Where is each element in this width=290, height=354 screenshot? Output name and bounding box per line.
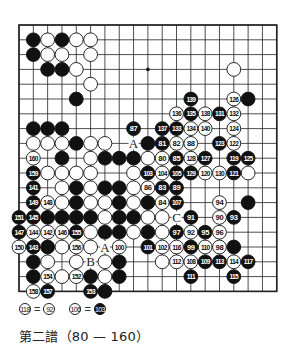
black-stone xyxy=(112,270,126,284)
move-number: 82 xyxy=(173,139,181,148)
move-number: 92 xyxy=(187,228,195,237)
black-stone: 153 xyxy=(84,285,98,299)
black-stone xyxy=(141,196,155,210)
move-number: 130 xyxy=(215,170,225,177)
white-stone xyxy=(41,255,55,269)
black-stone xyxy=(26,270,40,284)
white-stone: 90 xyxy=(213,211,227,225)
white-stone: 154 xyxy=(41,270,55,284)
white-stone xyxy=(55,240,69,254)
move-number: 109 xyxy=(201,258,211,265)
black-stone xyxy=(41,211,55,225)
white-stone xyxy=(84,166,98,180)
white-stone xyxy=(69,63,83,77)
diagram-caption: 第二譜（80 — 160） xyxy=(19,326,149,345)
white-stone xyxy=(84,33,98,47)
move-number: 94 xyxy=(216,198,225,207)
equals-sign: = xyxy=(83,303,91,315)
black-stone: 91 xyxy=(184,211,198,225)
black-stone: 145 xyxy=(26,211,40,225)
move-number: 126 xyxy=(229,96,239,103)
move-number: 111 xyxy=(187,273,196,280)
move-number: 97 xyxy=(173,228,181,237)
white-stone xyxy=(155,255,169,269)
black-stone: 85 xyxy=(170,151,184,165)
black-stone: 147 xyxy=(12,225,26,239)
white-stone: 126 xyxy=(227,92,241,106)
white-stone xyxy=(55,166,69,180)
black-stone: 133 xyxy=(170,122,184,136)
white-stone xyxy=(41,48,55,62)
white-stone xyxy=(127,166,141,180)
move-number: 122 xyxy=(229,140,239,147)
move-number: 85 xyxy=(173,154,182,163)
move-number: 148 xyxy=(43,199,53,206)
move-number: 147 xyxy=(15,229,25,236)
move-number: 131 xyxy=(215,110,225,117)
white-stone: 160 xyxy=(26,151,40,165)
move-number: 113 xyxy=(215,258,225,265)
black-stone xyxy=(26,255,40,269)
black-stone: 121 xyxy=(227,166,241,180)
black-stone: 127 xyxy=(198,151,212,165)
go-board-diagram: 1391261361351381311328713713313414012481… xyxy=(0,0,290,300)
white-stone: 108 xyxy=(184,255,198,269)
equals-sign: = xyxy=(33,303,41,315)
white-stone xyxy=(241,166,255,180)
white-stone xyxy=(41,137,55,151)
move-number: 127 xyxy=(201,155,211,162)
white-stone xyxy=(155,225,169,239)
white-stone xyxy=(55,48,69,62)
white-stone: 114 xyxy=(227,255,241,269)
move-number: 133 xyxy=(172,125,182,132)
white-stone xyxy=(98,196,112,210)
move-number: 104 xyxy=(158,170,168,177)
white-stone xyxy=(127,196,141,210)
white-stone: 122 xyxy=(227,137,241,151)
move-number: 145 xyxy=(29,214,39,221)
white-stone xyxy=(84,48,98,62)
white-stone xyxy=(98,137,112,151)
black-stone xyxy=(112,181,126,195)
black-stone: 137 xyxy=(155,122,169,136)
black-stone xyxy=(55,211,69,225)
white-stone: 144 xyxy=(26,225,40,239)
white-stone: 104 xyxy=(155,166,169,180)
move-number: 93 xyxy=(230,213,238,222)
move-number: 101 xyxy=(143,244,153,251)
white-stone: 88 xyxy=(184,137,198,151)
black-stone: 129 xyxy=(184,166,198,180)
black-stone xyxy=(84,211,98,225)
white-stone xyxy=(155,211,169,225)
move-number: 138 xyxy=(201,110,211,117)
move-number: 157 xyxy=(43,288,53,295)
star-point xyxy=(146,68,150,72)
move-number: 99 xyxy=(187,243,195,252)
black-stone: 155 xyxy=(69,225,83,239)
move-number: 141 xyxy=(29,184,39,191)
move-number: 144 xyxy=(29,229,39,236)
black-stone: 109 xyxy=(198,255,212,269)
black-stone xyxy=(55,122,69,136)
white-stone: 124 xyxy=(227,122,241,136)
white-stone xyxy=(98,255,112,269)
move-number: 108 xyxy=(186,258,196,265)
black-stone: 89 xyxy=(170,181,184,195)
black-stone xyxy=(227,240,241,254)
move-number: 115 xyxy=(230,273,240,280)
move-number: 102 xyxy=(158,244,168,251)
white-stone xyxy=(69,33,83,47)
move-number: 91 xyxy=(187,213,196,222)
move-number: 152 xyxy=(72,273,82,280)
white-stone xyxy=(84,151,98,165)
move-notes: 118 = 92 106 = 103 xyxy=(19,302,106,316)
note-ko-2: 106 = 103 xyxy=(69,303,105,315)
move-number: 134 xyxy=(186,125,196,132)
white-stone xyxy=(84,240,98,254)
black-stone: 99 xyxy=(184,240,198,254)
white-stone xyxy=(55,196,69,210)
white-stone xyxy=(141,211,155,225)
black-stone: 135 xyxy=(184,107,198,121)
white-stone xyxy=(84,196,98,210)
point-label: A xyxy=(100,240,110,255)
